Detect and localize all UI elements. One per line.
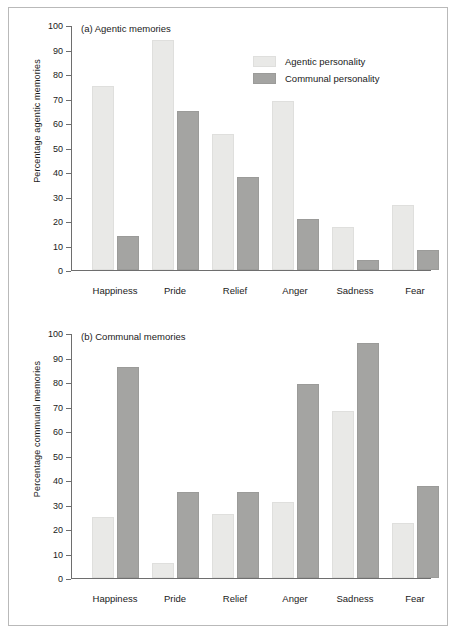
x-category-label-wrap: Sadness — [325, 593, 385, 604]
bar-relief-agentic — [212, 134, 234, 270]
y-tick-label: 100 — [48, 329, 63, 339]
x-category-label-anger: Anger — [265, 593, 325, 604]
y-tick-label: 70 — [53, 403, 63, 413]
x-category-label-wrap: Fear — [385, 285, 445, 296]
y-axis-label-a: Percentage agentic memories — [32, 31, 42, 211]
chart-panel-a: Percentage agentic memories (a) Agentic … — [9, 12, 449, 317]
y-tick-label: 60 — [53, 427, 63, 437]
bar-relief-communal — [237, 177, 259, 270]
x-category-label-relief: Relief — [205, 593, 265, 604]
bar-sadness-communal — [357, 260, 379, 270]
bar-relief-communal — [237, 492, 259, 578]
bar-group-anger: Anger — [265, 26, 325, 270]
x-category-label-wrap: Happiness — [85, 593, 145, 604]
bar-anger-agentic — [272, 101, 294, 270]
bar-group-anger: Anger — [265, 334, 325, 578]
bar-anger-agentic — [272, 502, 294, 578]
y-tick-mark-icon — [66, 222, 71, 223]
x-axis-line-a — [71, 270, 431, 271]
x-category-label-wrap: Pride — [145, 593, 205, 604]
y-tick-mark-icon — [66, 334, 71, 335]
bar-group-relief: Relief — [205, 334, 265, 578]
bar-group-happiness: Happiness — [85, 26, 145, 270]
y-tick-mark-icon — [66, 432, 71, 433]
x-category-label-wrap: Pride — [145, 285, 205, 296]
x-category-label-wrap: Happiness — [85, 285, 145, 296]
y-tick-label: 30 — [53, 501, 63, 511]
y-tick-mark-icon — [66, 247, 71, 248]
bar-sadness-communal — [357, 343, 379, 578]
bar-pride-communal — [177, 492, 199, 578]
plot-area-a: 0102030405060708090100HappinessPrideReli… — [71, 26, 431, 271]
x-category-label-sadness: Sadness — [325, 593, 385, 604]
plot-area-b: 0102030405060708090100HappinessPrideReli… — [71, 334, 431, 579]
y-tick-mark-icon — [66, 198, 71, 199]
y-tick-mark-icon — [66, 26, 71, 27]
x-category-label-wrap: Anger — [265, 285, 325, 296]
y-tick-label: 90 — [53, 354, 63, 364]
x-axis-line-b — [71, 578, 431, 579]
y-tick-mark-icon — [66, 579, 71, 580]
x-category-label-anger: Anger — [265, 285, 325, 296]
x-category-label-pride: Pride — [145, 285, 205, 296]
y-tick-label: 30 — [53, 193, 63, 203]
x-category-label-wrap: Anger — [265, 593, 325, 604]
y-tick-mark-icon — [66, 555, 71, 556]
y-tick-label: 10 — [53, 242, 63, 252]
x-category-label-relief: Relief — [205, 285, 265, 296]
x-category-label-wrap: Relief — [205, 593, 265, 604]
bar-group-happiness: Happiness — [85, 334, 145, 578]
x-category-label-wrap: Fear — [385, 593, 445, 604]
y-tick-mark-icon — [66, 149, 71, 150]
y-tick-mark-icon — [66, 100, 71, 101]
bar-happiness-agentic — [92, 86, 114, 270]
y-tick-label: 0 — [58, 266, 63, 276]
y-tick-mark-icon — [66, 359, 71, 360]
y-tick-label: 70 — [53, 95, 63, 105]
bar-group-sadness: Sadness — [325, 334, 385, 578]
y-tick-mark-icon — [66, 506, 71, 507]
x-category-label-pride: Pride — [145, 593, 205, 604]
x-category-label-fear: Fear — [385, 593, 445, 604]
x-category-label-sadness: Sadness — [325, 285, 385, 296]
y-axis-line-a — [71, 26, 72, 271]
bar-happiness-agentic — [92, 517, 114, 578]
y-tick-mark-icon — [66, 271, 71, 272]
y-tick-label: 40 — [53, 476, 63, 486]
bar-fear-agentic — [392, 523, 414, 578]
bar-fear-communal — [417, 250, 439, 270]
y-axis-label-b: Percentage communal memories — [32, 339, 42, 519]
y-tick-label: 50 — [53, 144, 63, 154]
bar-pride-communal — [177, 111, 199, 270]
y-tick-label: 50 — [53, 452, 63, 462]
bar-anger-communal — [297, 384, 319, 578]
y-tick-mark-icon — [66, 481, 71, 482]
y-tick-mark-icon — [66, 51, 71, 52]
y-tick-mark-icon — [66, 124, 71, 125]
y-tick-label: 100 — [48, 21, 63, 31]
bar-fear-communal — [417, 486, 439, 578]
bar-group-relief: Relief — [205, 26, 265, 270]
y-tick-label: 0 — [58, 574, 63, 584]
y-axis-line-b — [71, 334, 72, 579]
y-tick-label: 20 — [53, 217, 63, 227]
y-tick-mark-icon — [66, 383, 71, 384]
y-tick-mark-icon — [66, 408, 71, 409]
y-tick-label: 80 — [53, 70, 63, 80]
bar-group-sadness: Sadness — [325, 26, 385, 270]
figure-frame: Percentage agentic memories (a) Agentic … — [8, 7, 448, 626]
x-category-label-happiness: Happiness — [85, 593, 145, 604]
bar-group-pride: Pride — [145, 26, 205, 270]
chart-panel-b: Percentage communal memories (b) Communa… — [9, 320, 449, 625]
y-tick-label: 90 — [53, 46, 63, 56]
y-tick-mark-icon — [66, 75, 71, 76]
y-tick-label: 80 — [53, 378, 63, 388]
x-category-label-wrap: Sadness — [325, 285, 385, 296]
bar-anger-communal — [297, 219, 319, 270]
bar-group-pride: Pride — [145, 334, 205, 578]
bar-group-fear: Fear — [385, 334, 445, 578]
bar-pride-agentic — [152, 40, 174, 270]
bar-sadness-agentic — [332, 411, 354, 578]
bar-pride-agentic — [152, 563, 174, 578]
y-tick-mark-icon — [66, 173, 71, 174]
